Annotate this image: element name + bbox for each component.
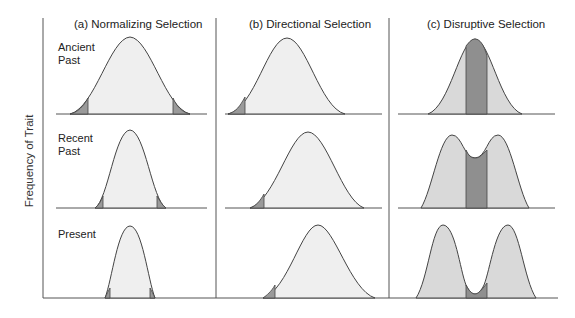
curve-c-ancient [428, 39, 522, 114]
y-axis-label: Frequency of Trait [23, 106, 35, 216]
curve-a-recent [95, 130, 166, 208]
curve-a-present [105, 226, 155, 298]
curve-c-recent [421, 135, 529, 208]
curve-b-present [263, 225, 375, 298]
panel-title-b: (b) Directional Selection [249, 18, 371, 30]
curve-b-recent [250, 132, 364, 208]
panel-title-c: (c) Disruptive Selection [427, 18, 545, 30]
curve-b-ancient [228, 38, 345, 114]
row-label-ancient: Ancient Past [58, 41, 95, 67]
panel-title-a: (a) Normalizing Selection [74, 18, 202, 30]
row-label-present: Present [58, 228, 96, 241]
row-label-recent: Recent Past [58, 132, 93, 158]
curve-c-present [416, 225, 536, 298]
